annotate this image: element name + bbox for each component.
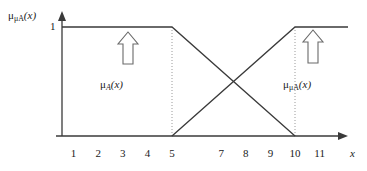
y-axis-label-arg: (x)	[24, 9, 36, 21]
x-tick-label: 1	[71, 147, 77, 159]
x-tick-label: 2	[95, 147, 101, 159]
x-tick-label: 8	[243, 147, 249, 159]
series-line-mu-mu-a	[172, 27, 348, 136]
series-line-mu-a	[62, 27, 295, 136]
y-tick-label-1: 1	[50, 21, 56, 32]
right-function-label: μμA(x)	[283, 79, 311, 92]
right-function-label-arg: (x)	[299, 78, 311, 90]
y-axis-arrowhead-icon	[58, 11, 66, 21]
x-tick-label: 10	[290, 147, 301, 159]
x-tick-label: 7	[218, 147, 224, 159]
x-axis-label: x	[350, 148, 355, 159]
x-tick-label: 11	[314, 147, 325, 159]
x-tick-label: 9	[268, 147, 274, 159]
fuzzy-membership-figure: μμA(x) 1 μA(x) μμA(x) x 123457891011	[0, 0, 367, 171]
y-axis-label-subscript: μA	[14, 14, 24, 23]
left-function-label: μA(x)	[100, 79, 123, 92]
x-tick-label: 5	[169, 147, 175, 159]
y-axis-label: μμA(x)	[8, 10, 36, 23]
right-function-label-subscript: μA	[289, 83, 299, 92]
x-tick-label: 4	[145, 147, 151, 159]
left-up-arrow-icon	[118, 32, 138, 64]
x-axis-arrowhead-icon	[338, 132, 348, 140]
left-function-label-arg: (x)	[111, 78, 123, 90]
right-up-arrow-icon	[303, 30, 323, 63]
x-tick-label: 3	[120, 147, 126, 159]
